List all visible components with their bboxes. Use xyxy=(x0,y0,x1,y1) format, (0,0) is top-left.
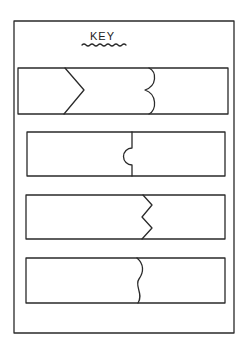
curly-bracket-joint xyxy=(145,68,155,114)
box-4 xyxy=(26,258,225,303)
chevron-joint xyxy=(64,68,84,114)
semicircle-tab-joint xyxy=(124,132,132,176)
key-diagram: KEY xyxy=(0,0,244,344)
box-2 xyxy=(27,132,225,176)
key-item-semicircle-tab xyxy=(27,132,225,176)
wavy-underline xyxy=(82,44,126,46)
key-item-chevron-bracket xyxy=(18,68,228,114)
box-3 xyxy=(26,195,225,239)
key-item-zigzag xyxy=(26,195,225,239)
key-title: KEY xyxy=(90,30,115,42)
box-1 xyxy=(18,68,228,114)
wavy-joint xyxy=(137,258,143,303)
zigzag-joint xyxy=(142,195,152,239)
key-item-wavy xyxy=(26,258,225,303)
